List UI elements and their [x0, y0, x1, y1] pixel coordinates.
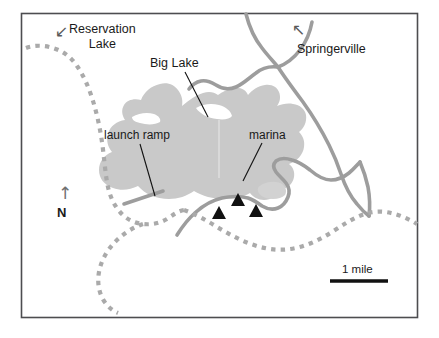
- map-canvas: [0, 0, 439, 338]
- label-north: N: [57, 206, 66, 221]
- label-reservation-lake-line1: Reservation: [69, 22, 136, 37]
- label-reservation-lake-line2: Lake: [69, 37, 136, 52]
- label-scale-bar: 1 mile: [342, 263, 373, 276]
- label-big-lake: Big Lake: [150, 56, 199, 70]
- springerville-arrow-icon: ↖: [292, 20, 305, 39]
- label-marina: marina: [249, 129, 286, 142]
- reservation-lake-arrow-icon: ↙: [55, 22, 68, 41]
- north-arrow-icon: ↑: [58, 183, 72, 203]
- label-reservation-lake: Reservation Lake: [69, 22, 136, 52]
- map-figure: Reservation Lake ↙ Springerville ↖ Big L…: [0, 0, 439, 338]
- label-springerville: Springerville: [297, 42, 366, 56]
- label-launch-ramp: launch ramp: [104, 129, 170, 142]
